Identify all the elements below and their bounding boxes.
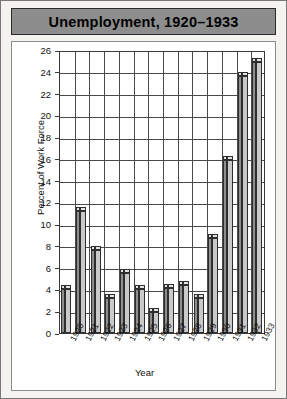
y-tick-mark <box>55 203 59 204</box>
y-tick-label: 14 <box>11 177 51 187</box>
bar-top-face <box>153 308 159 312</box>
y-tick-mark <box>55 312 59 313</box>
bar-1930 <box>208 238 218 333</box>
bar-top-face <box>183 281 189 285</box>
y-tick-label: 22 <box>11 90 51 100</box>
gridline-horizontal <box>60 117 264 118</box>
y-tick-label: 2 <box>11 307 51 317</box>
bar-top-face <box>212 234 218 238</box>
gridline-vertical <box>192 52 193 333</box>
bar-top-face <box>95 246 101 250</box>
bar-1932 <box>238 76 248 333</box>
y-tick-mark <box>55 116 59 117</box>
y-tick-label: 6 <box>11 264 51 274</box>
bar-1921 <box>76 211 86 333</box>
gridline-vertical <box>104 52 105 333</box>
bar-top-face <box>109 294 115 298</box>
bar-top-face <box>227 156 233 160</box>
bar-front-face <box>256 62 262 333</box>
bar-top-face <box>80 207 86 211</box>
y-tick-label: 0 <box>11 329 51 339</box>
y-tick-label: 24 <box>11 68 51 78</box>
bar-top-face <box>65 285 71 289</box>
bar-1920 <box>61 289 71 333</box>
gridline-horizontal <box>60 73 264 74</box>
bar-top-face <box>256 58 262 62</box>
bar-top-face <box>124 269 130 273</box>
y-tick-mark <box>55 138 59 139</box>
bar-top-face <box>242 72 248 76</box>
gridline-vertical <box>148 52 149 333</box>
plot-area <box>59 51 265 334</box>
y-tick-label: 12 <box>11 198 51 208</box>
bar-top-face <box>139 285 145 289</box>
y-tick-mark <box>55 334 59 335</box>
bar-front-face <box>80 211 86 333</box>
bar-1933 <box>252 62 262 333</box>
y-tick-mark <box>55 94 59 95</box>
y-tick-mark <box>55 225 59 226</box>
y-tick-mark <box>55 246 59 247</box>
y-tick-mark <box>55 290 59 291</box>
bar-front-face <box>242 76 248 333</box>
bar-1931 <box>223 160 233 333</box>
gridline-horizontal <box>60 95 264 96</box>
y-tick-mark <box>55 72 59 73</box>
y-tick-mark <box>55 51 59 52</box>
bar-top-face <box>198 294 204 298</box>
y-tick-mark <box>55 268 59 269</box>
y-tick-label: 18 <box>11 133 51 143</box>
gridline-horizontal <box>60 139 264 140</box>
bar-front-face <box>212 238 218 333</box>
gridline-horizontal <box>60 204 264 205</box>
x-axis-label: Year <box>12 367 277 378</box>
y-tick-label: 20 <box>11 111 51 121</box>
chart-panel: Percent of Work Force Year 0246810121416… <box>11 41 276 391</box>
y-tick-mark <box>55 181 59 182</box>
page-title: Unemployment, 1920–1933 <box>49 14 239 30</box>
bar-front-face <box>65 289 71 333</box>
gridline-horizontal <box>60 182 264 183</box>
y-tick-label: 16 <box>11 155 51 165</box>
chart-title-bar: Unemployment, 1920–1933 <box>11 8 276 35</box>
bar-top-face <box>168 284 174 288</box>
bar-front-face <box>95 250 101 333</box>
y-tick-label: 10 <box>11 220 51 230</box>
gridline-horizontal <box>60 160 264 161</box>
gridline-horizontal <box>60 226 264 227</box>
chart-figure: Unemployment, 1920–1933 Percent of Work … <box>0 0 287 399</box>
y-tick-mark <box>55 159 59 160</box>
bar-front-face <box>227 160 233 333</box>
y-tick-label: 8 <box>11 242 51 252</box>
y-tick-label: 4 <box>11 285 51 295</box>
y-tick-label: 26 <box>11 46 51 56</box>
